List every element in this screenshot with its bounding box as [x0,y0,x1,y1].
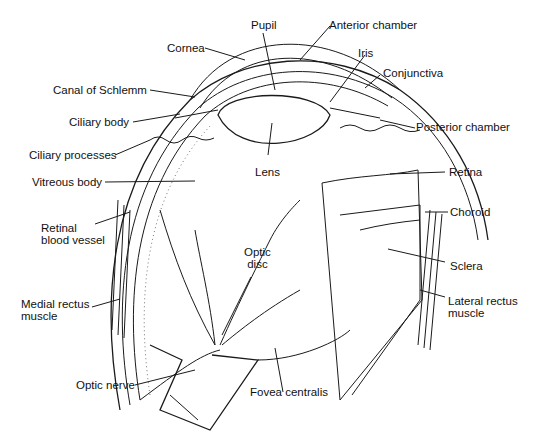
label-pupil: Pupil [251,19,277,31]
leader-sclera [388,249,445,262]
label-cornea: Cornea [167,42,205,54]
label-posterior-chamber: Posterior chamber [416,121,510,133]
leader-lateral-rectus [420,290,445,297]
leader-iris [330,55,365,102]
label-fovea-centralis: Fovea centralis [250,386,328,398]
leader-vitreous-body [105,181,195,182]
label-iris: Iris [358,47,373,59]
label-lens: Lens [255,166,280,178]
leader-cornea [205,48,245,60]
leader-ciliary-processes [115,140,150,155]
label-canal-of-schlemm: Canal of Schlemm [53,84,147,96]
label-sclera: Sclera [450,260,483,272]
label-retina: Retina [449,166,482,178]
label-conjunctiva: Conjunctiva [383,67,443,79]
label-ciliary-processes: Ciliary processes [29,149,117,161]
leader-optic-nerve [135,370,195,385]
label-optic-disc: Optic disc [244,246,271,270]
label-retinal-blood-vessel: Retinal blood vessel [41,222,105,246]
leader-lens [268,123,272,155]
leader-optic-disc [222,277,251,335]
eye-anatomy-diagram: Pupil Anterior chamber Cornea Iris Conju… [0,0,536,436]
leader-pupil [263,33,275,90]
label-choroid: Choroid [450,206,490,218]
label-vitreous-body: Vitreous body [32,176,102,188]
leader-anterior-chamber [300,26,330,60]
label-anterior-chamber: Anterior chamber [329,19,417,31]
optic-nerve-shape [150,345,258,430]
label-lateral-rectus-muscle: Lateral rectus muscle [448,295,518,319]
leader-canal-of-schlemm [150,90,195,97]
label-optic-nerve: Optic nerve [76,379,135,391]
leader-medial-rectus [92,299,120,307]
label-medial-rectus-muscle: Medial rectus muscle [21,298,89,322]
eye-illustration [0,0,536,436]
lens-shape [218,95,330,143]
label-ciliary-body: Ciliary body [69,116,129,128]
